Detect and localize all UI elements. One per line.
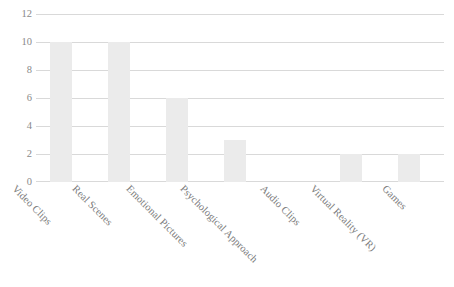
x-label-audio-clips: Audio Clips xyxy=(258,183,303,228)
bar-video-clips xyxy=(50,42,72,182)
y-tick-label-2: 2 xyxy=(2,149,32,160)
y-tick-label-12: 12 xyxy=(2,9,32,20)
bar-psychological-approach xyxy=(224,140,246,182)
y-tick-label-4: 4 xyxy=(2,121,32,132)
y-axis-labels: 12 10 8 6 4 2 0 xyxy=(0,14,32,182)
x-label-games: Games xyxy=(380,183,409,212)
x-axis-labels: Video Clips Real Scenes Emotional Pictur… xyxy=(0,183,454,287)
y-tick-label-6: 6 xyxy=(2,93,32,104)
x-label-real-scenes: Real Scenes xyxy=(70,183,115,228)
x-label-virtual-reality: Virtual Reality (VR) xyxy=(308,183,378,253)
x-label-psychological-approach: Psychological Approach xyxy=(178,183,260,265)
bar-chart: 12 10 8 6 4 2 0 Video Clips Real Scenes … xyxy=(0,0,454,287)
bar-real-scenes xyxy=(108,42,130,182)
bar-games xyxy=(398,154,420,182)
x-label-video-clips: Video Clips xyxy=(10,183,54,227)
y-tick-label-10: 10 xyxy=(2,37,32,48)
y-tick-label-8: 8 xyxy=(2,65,32,76)
bar-series xyxy=(36,14,444,182)
bar-emotional-pictures xyxy=(166,98,188,182)
bar-virtual-reality xyxy=(340,154,362,182)
